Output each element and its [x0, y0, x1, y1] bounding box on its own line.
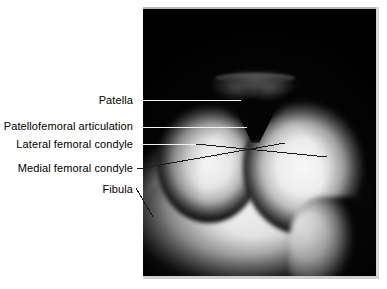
fibula-shadow — [289, 197, 367, 279]
xray-image — [143, 7, 379, 279]
label-medial-femoral-condyle: Medial femoral condyle — [18, 162, 133, 174]
label-patellofemoral-articulation: Patellofemoral articulation — [4, 120, 133, 132]
label-patella: Patella — [99, 94, 133, 106]
label-fibula: Fibula — [102, 183, 133, 195]
film-edge-top — [143, 7, 379, 9]
label-lateral-femoral-condyle: Lateral femoral condyle — [16, 138, 133, 150]
film-edge-bottom — [143, 276, 379, 279]
annotated-radiograph-figure: Patella Patellofemoral articulation Late… — [0, 0, 387, 289]
film-edge-right — [376, 7, 379, 279]
